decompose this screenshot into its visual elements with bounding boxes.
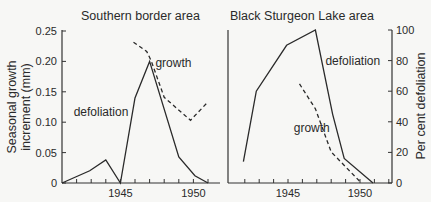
chart-figure: Southern border area Seasonal growth inc… bbox=[0, 0, 431, 202]
y-tick-label: 0 bbox=[396, 177, 402, 189]
y-tick-label: 0 bbox=[51, 177, 57, 189]
y-tick-label: 0.10 bbox=[36, 116, 57, 128]
panel-black-sturgeon: Black Sturgeon Lake area 194519500204060… bbox=[228, 9, 428, 199]
series-line-growth bbox=[62, 61, 208, 183]
annotation-defoliation: defoliation bbox=[325, 54, 380, 68]
x-tick-label: 1945 bbox=[276, 187, 300, 199]
y-tick-label: 0.25 bbox=[36, 25, 57, 37]
y-tick-label: 80 bbox=[396, 55, 408, 67]
panel-southern-border: Southern border area Seasonal growth inc… bbox=[5, 9, 220, 199]
y-axis-title-right: Per cent defoliation bbox=[414, 52, 428, 159]
panel-title-southern: Southern border area bbox=[81, 9, 200, 23]
x-tick-label: 1950 bbox=[181, 187, 205, 199]
annotation-growth: growth bbox=[294, 121, 330, 135]
y-tick-label: 60 bbox=[396, 85, 408, 97]
y-tick-label: 100 bbox=[396, 24, 414, 36]
y-tick-label: 20 bbox=[396, 146, 408, 158]
y-tick-label: 40 bbox=[396, 116, 408, 128]
y-tick-label: 0.20 bbox=[36, 55, 57, 67]
annotation-growth: growth bbox=[155, 56, 191, 70]
y-tick-label: 0.05 bbox=[36, 147, 57, 159]
y-tick-label: 0.15 bbox=[36, 86, 57, 98]
y-axis-title-left-line1: Seasonal growth bbox=[5, 60, 19, 153]
panel-title-black-sturgeon: Black Sturgeon Lake area bbox=[230, 9, 374, 23]
x-tick-label: 1950 bbox=[348, 187, 372, 199]
x-tick-label: 1945 bbox=[108, 187, 132, 199]
annotation-defoliation: defoliation bbox=[74, 105, 129, 119]
y-axis-title-left-line2: increment (mm) bbox=[19, 63, 33, 151]
series-line-defoliation bbox=[134, 42, 209, 120]
